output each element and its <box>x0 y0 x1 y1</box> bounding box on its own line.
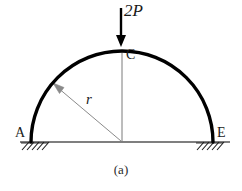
right-support-hatching <box>196 142 224 150</box>
radius-label-r: r <box>86 92 92 107</box>
figure-container: 2P C r A E (a) <box>0 0 242 191</box>
figure-caption: (a) <box>0 162 242 178</box>
support-label-a: A <box>15 126 25 140</box>
load-label: 2P <box>124 2 143 19</box>
crown-point-label-c: C <box>126 48 135 62</box>
left-support-hatching <box>21 142 49 150</box>
support-label-e: E <box>217 126 226 140</box>
